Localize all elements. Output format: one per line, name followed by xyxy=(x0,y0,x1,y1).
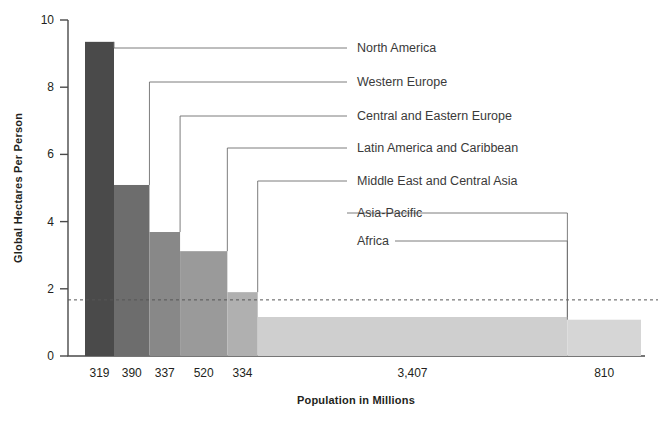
bar-asia-pacific xyxy=(258,317,568,356)
series-label-central-and-eastern-europe: Central and Eastern Europe xyxy=(357,109,512,123)
series-label-north-america: North America xyxy=(357,41,436,55)
y-tick-label: 8 xyxy=(47,80,54,94)
y-tick-label: 2 xyxy=(47,282,54,296)
leader-line-latin-america-and-caribbean xyxy=(227,148,347,251)
chart-canvas: 0246810 3193903375203343,407810 North Am… xyxy=(0,0,660,424)
y-axis-tick-labels: 0246810 xyxy=(41,13,55,363)
bar-latin-america-and-caribbean xyxy=(180,251,227,356)
leader-line-north-america xyxy=(114,42,347,48)
population-label-1: 390 xyxy=(122,366,142,380)
y-tick-label: 10 xyxy=(41,13,55,27)
population-label-6: 810 xyxy=(594,366,614,380)
series-label-asia-pacific: Asia-Pacific xyxy=(357,206,422,220)
series-label-africa: Africa xyxy=(357,234,389,248)
bar-africa xyxy=(567,320,641,356)
leader-line-western-europe xyxy=(149,82,347,185)
bar-middle-east-and-central-asia xyxy=(227,292,257,356)
series-label-latin-america-and-caribbean: Latin America and Caribbean xyxy=(357,141,518,155)
population-label-0: 319 xyxy=(89,366,109,380)
population-label-5: 3,407 xyxy=(398,366,428,380)
y-axis-title: Global Hectares Per Person xyxy=(12,113,24,263)
leader-line-asia-pacific xyxy=(347,213,567,317)
bar-north-america xyxy=(85,42,114,356)
leader-line-africa xyxy=(395,241,567,320)
ecological-footprint-bar-chart: 0246810 3193903375203343,407810 North Am… xyxy=(0,0,660,424)
series-label-western-europe: Western Europe xyxy=(357,75,447,89)
series-label-middle-east-and-central-asia: Middle East and Central Asia xyxy=(357,174,518,188)
y-tick-label: 0 xyxy=(47,349,54,363)
y-tick-label: 6 xyxy=(47,147,54,161)
population-tick-labels: 3193903375203343,407810 xyxy=(89,366,614,380)
series-labels-group: North AmericaWestern EuropeCentral and E… xyxy=(357,41,518,248)
y-axis-tick-marks xyxy=(60,20,68,356)
bar-western-europe xyxy=(114,185,149,356)
leader-line-middle-east-and-central-asia xyxy=(258,181,347,292)
population-label-4: 334 xyxy=(233,366,253,380)
bar-central-and-eastern-europe xyxy=(149,232,180,356)
y-tick-label: 4 xyxy=(47,215,54,229)
population-label-2: 337 xyxy=(155,366,175,380)
leader-line-central-and-eastern-europe xyxy=(180,116,347,232)
x-axis-title: Population in Millions xyxy=(297,394,415,406)
population-label-3: 520 xyxy=(194,366,214,380)
